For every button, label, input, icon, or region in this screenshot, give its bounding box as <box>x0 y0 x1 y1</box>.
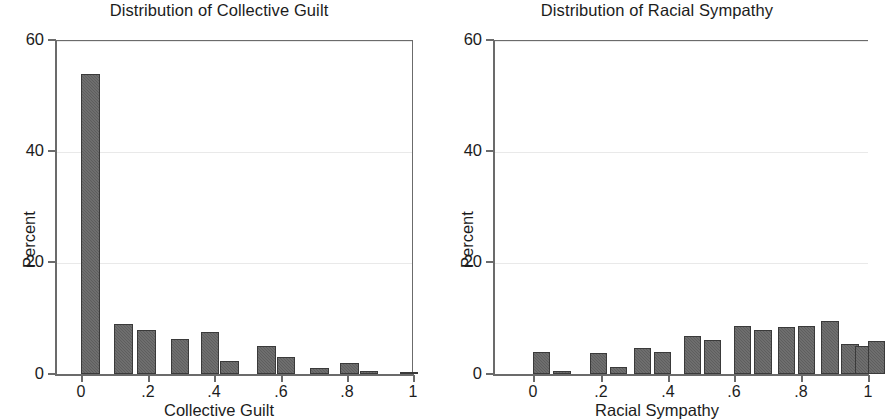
y-tick-mark-60 <box>48 39 56 41</box>
histogram-bar <box>137 330 156 374</box>
histogram-bar <box>654 352 671 374</box>
histogram-bar <box>81 74 100 374</box>
gridline-20 <box>493 263 868 264</box>
x-tick-label-06: .6 <box>274 383 287 401</box>
x-axis-label: Racial Sympathy <box>438 401 876 420</box>
gridline-60 <box>493 41 868 42</box>
x-tick-label-02: .2 <box>594 383 607 401</box>
y-tick-label-20: 20 <box>448 253 482 270</box>
histogram-bar <box>360 371 379 374</box>
x-tick-label-04: .4 <box>207 383 220 401</box>
histogram-bar <box>201 332 220 374</box>
histogram-bar <box>734 326 751 374</box>
histogram-bar <box>553 371 570 374</box>
x-tick-label-0: 0 <box>77 383 86 401</box>
x-tick-mark-08 <box>347 375 349 382</box>
x-axis-line <box>493 374 869 376</box>
y-tick-label-60: 60 <box>10 31 44 48</box>
histogram-bar <box>868 341 885 374</box>
y-tick-mark-20 <box>48 261 56 263</box>
y-tick-mark-0 <box>48 373 56 375</box>
x-axis-label: Collective Guilt <box>0 401 438 420</box>
gridline-40 <box>493 152 868 153</box>
plot-area <box>55 40 413 374</box>
histogram-bar <box>610 367 627 374</box>
x-tick-mark-1 <box>413 375 415 382</box>
x-tick-label-04: .4 <box>661 383 674 401</box>
y-tick-mark-60 <box>486 39 494 41</box>
x-tick-mark-0 <box>533 375 535 382</box>
x-tick-label-1: 1 <box>409 383 418 401</box>
histogram-bar <box>400 372 419 374</box>
panel-title: Distribution of Collective Guilt <box>0 1 438 20</box>
x-tick-label-0: 0 <box>529 383 538 401</box>
plot-area <box>493 40 868 374</box>
x-tick-label-08: .8 <box>794 383 807 401</box>
y-tick-label-20: 20 <box>10 253 44 270</box>
x-tick-mark-04 <box>214 375 216 382</box>
x-tick-mark-1 <box>868 375 870 382</box>
histogram-bar <box>257 346 276 374</box>
y-tick-mark-20 <box>486 261 494 263</box>
x-axis-line <box>55 374 414 376</box>
gridline-40 <box>55 152 412 153</box>
y-axis-line <box>493 40 495 375</box>
gridline-20 <box>55 263 412 264</box>
x-tick-label-06: .6 <box>727 383 740 401</box>
histogram-bar <box>340 363 359 374</box>
histogram-bar <box>684 336 701 374</box>
panel-racial-sympathy: Distribution of Racial Sympathy Percent … <box>438 0 876 420</box>
histogram-bar <box>821 321 838 374</box>
x-tick-mark-02 <box>148 375 150 382</box>
x-tick-mark-04 <box>668 375 670 382</box>
y-tick-label-0: 0 <box>448 365 482 382</box>
x-tick-mark-0 <box>81 375 83 382</box>
histogram-bar <box>533 352 550 374</box>
histogram-bar <box>704 340 721 374</box>
histogram-bar <box>310 368 329 374</box>
x-tick-mark-08 <box>801 375 803 382</box>
y-tick-mark-40 <box>486 150 494 152</box>
y-tick-label-40: 40 <box>448 142 482 159</box>
y-tick-label-60: 60 <box>448 31 482 48</box>
x-tick-label-02: .2 <box>141 383 154 401</box>
panel-title: Distribution of Racial Sympathy <box>438 1 876 20</box>
y-tick-label-0: 0 <box>10 365 44 382</box>
y-tick-mark-40 <box>48 150 56 152</box>
panel-collective-guilt: Distribution of Collective Guilt Percent… <box>0 0 438 420</box>
histogram-bar <box>114 324 133 374</box>
gridline-60 <box>55 41 412 42</box>
histogram-bar <box>590 353 607 374</box>
x-tick-mark-06 <box>281 375 283 382</box>
x-tick-label-08: .8 <box>340 383 353 401</box>
x-tick-mark-06 <box>734 375 736 382</box>
y-tick-mark-0 <box>486 373 494 375</box>
x-tick-label-1: 1 <box>864 383 873 401</box>
histogram-bar <box>634 348 651 374</box>
y-tick-label-40: 40 <box>10 142 44 159</box>
histogram-bar <box>277 357 296 374</box>
histogram-bar <box>171 339 190 374</box>
histogram-bar <box>754 330 771 374</box>
histogram-bar <box>798 326 815 374</box>
x-tick-mark-02 <box>601 375 603 382</box>
histogram-bar <box>220 361 239 374</box>
histogram-bar <box>778 327 795 374</box>
y-axis-line <box>55 40 57 375</box>
